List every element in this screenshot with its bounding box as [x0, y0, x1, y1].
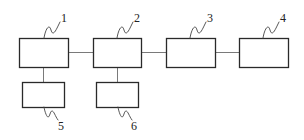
label-5: 5	[58, 119, 64, 133]
leader-line-3	[190, 22, 206, 38]
blocks	[20, 39, 289, 108]
label-6: 6	[131, 119, 137, 133]
block-1	[20, 39, 69, 68]
leader-line-4	[263, 22, 279, 38]
leader-line-1	[44, 22, 60, 38]
block-5	[23, 83, 65, 108]
block-diagram: 1 2 3 4 5 6	[0, 0, 304, 140]
block-4	[240, 39, 289, 68]
label-4: 4	[280, 11, 286, 25]
label-1: 1	[61, 11, 67, 25]
leader-line-5	[44, 107, 58, 120]
label-2: 2	[134, 11, 140, 25]
block-2	[94, 39, 142, 68]
leader-lines	[44, 22, 279, 120]
label-3: 3	[207, 11, 213, 25]
block-3	[167, 39, 216, 68]
leader-line-6	[118, 107, 132, 120]
reference-labels: 1 2 3 4 5 6	[58, 11, 286, 133]
leader-line-2	[117, 22, 133, 38]
block-6	[97, 83, 139, 108]
